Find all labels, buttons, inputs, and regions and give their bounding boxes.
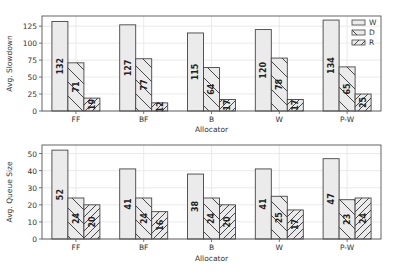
x-tick-label: FF <box>72 243 81 252</box>
bar-value-label: 24 <box>359 212 368 224</box>
y-tick-label: 25 <box>27 90 37 99</box>
y-tick-label: 30 <box>27 184 37 193</box>
legend-swatch-w <box>352 20 365 25</box>
bar-value-label: 134 <box>327 57 336 74</box>
x-tick-label: W <box>276 115 284 124</box>
y-tick-label: 50 <box>27 150 37 159</box>
x-axis-label: Allocator <box>195 125 229 134</box>
chart-figure: 02550751001251327119FF1277712BF1156417B1… <box>0 0 397 272</box>
bar-value-label: 71 <box>72 81 81 93</box>
bar-value-label: 120 <box>259 62 268 79</box>
queue-size-chart: 01020304050522420FF412416BF382420B412517… <box>5 145 381 263</box>
y-axis-label: Avg. Slowdown <box>5 35 14 92</box>
x-tick-label: B <box>209 243 214 252</box>
bar-value-label: 47 <box>327 193 336 204</box>
legend-swatch-d <box>352 30 365 35</box>
x-tick-label: P-W <box>340 243 355 252</box>
bar-value-label: 132 <box>56 58 65 75</box>
bar-value-label: 17 <box>291 100 300 111</box>
bar-value-label: 25 <box>359 97 368 109</box>
bar-value-label: 24 <box>140 212 149 224</box>
bar-value-label: 65 <box>343 83 352 95</box>
bar-value-label: 52 <box>56 189 65 200</box>
bar-value-label: 20 <box>224 216 233 228</box>
legend-label-r: R <box>369 38 374 47</box>
x-tick-label: FF <box>72 115 81 124</box>
y-tick-label: 100 <box>23 39 38 48</box>
legend: WDR <box>352 18 377 47</box>
y-tick-label: 10 <box>27 218 37 227</box>
y-tick-label: 125 <box>23 22 38 31</box>
bar-value-label: 19 <box>88 99 97 111</box>
slowdown-chart: 02550751001251327119FF1277712BF1156417B1… <box>5 16 381 134</box>
y-axis-label: Avg. Queue Size <box>5 161 14 222</box>
x-tick-label: BF <box>139 243 148 252</box>
bar-value-label: 127 <box>124 60 133 77</box>
legend-label-w: W <box>369 18 377 27</box>
bar-value-label: 41 <box>124 198 133 210</box>
x-tick-label: P-W <box>340 115 355 124</box>
x-tick-label: W <box>276 243 284 252</box>
legend-label-d: D <box>369 28 375 37</box>
y-tick-label: 20 <box>27 201 37 210</box>
figure: 02550751001251327119FF1277712BF1156417B1… <box>0 0 397 272</box>
y-tick-label: 40 <box>27 167 37 176</box>
bar-value-label: 77 <box>140 79 149 90</box>
bar-value-label: 24 <box>72 212 81 224</box>
y-tick-label: 0 <box>32 107 37 116</box>
bar-value-label: 41 <box>259 198 268 210</box>
bar-value-label: 115 <box>192 63 201 80</box>
y-tick-label: 50 <box>27 73 37 82</box>
bar-value-label: 16 <box>156 219 165 231</box>
x-tick-label: BF <box>139 115 148 124</box>
x-axis-label: Allocator <box>195 254 229 263</box>
bar-value-label: 17 <box>224 100 233 111</box>
x-tick-label: B <box>209 115 214 124</box>
bar-value-label: 64 <box>208 83 217 95</box>
bar-value-label: 17 <box>291 219 300 230</box>
bar-value-label: 24 <box>208 212 217 224</box>
bar-value-label: 38 <box>192 201 201 213</box>
bar-value-label: 25 <box>275 212 284 224</box>
y-tick-label: 0 <box>32 235 37 244</box>
legend-swatch-r <box>352 40 365 45</box>
bar-value-label: 20 <box>88 216 97 228</box>
bar-value-label: 23 <box>343 214 352 225</box>
y-tick-label: 75 <box>27 56 37 65</box>
bar-value-label: 78 <box>275 79 284 91</box>
